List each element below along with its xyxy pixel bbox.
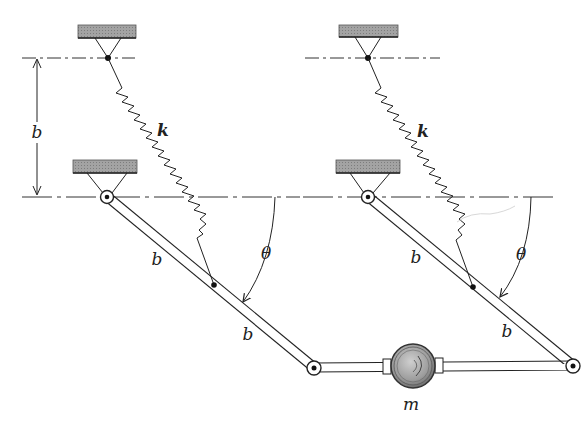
right-link-lower-b-label: b bbox=[502, 323, 513, 340]
dimension-b-label: b bbox=[32, 124, 43, 141]
left-assembly bbox=[73, 25, 317, 371]
left-bottom-pin-icon bbox=[307, 361, 321, 375]
right-bottom-ground bbox=[336, 160, 400, 173]
right-spring-k-label: k bbox=[417, 123, 429, 140]
mechanism-diagram bbox=[0, 0, 586, 421]
left-link bbox=[104, 193, 317, 371]
reference-lines bbox=[22, 58, 556, 197]
right-top-bracket bbox=[355, 37, 381, 58]
right-spring-attach-icon bbox=[470, 284, 476, 290]
right-link-upper-b-label: b bbox=[411, 249, 422, 266]
right-bottom-bracket bbox=[350, 173, 390, 193]
mass bbox=[383, 344, 443, 388]
mass-m-label: m bbox=[403, 396, 419, 413]
mass-left-collar bbox=[383, 359, 391, 374]
left-top-ground bbox=[78, 25, 136, 38]
right-theta-label: θ bbox=[516, 246, 526, 263]
left-spring-k-label: k bbox=[157, 122, 169, 139]
right-bottom-pin-icon bbox=[566, 359, 580, 373]
left-link-upper-b-label: b bbox=[152, 251, 163, 268]
left-link-lower-b-label: b bbox=[243, 326, 254, 343]
right-top-ground bbox=[339, 25, 398, 37]
connecting-rod-fill bbox=[318, 364, 570, 370]
mass-right-collar bbox=[435, 358, 443, 373]
mass-ball bbox=[391, 344, 435, 388]
left-spring-attach-icon bbox=[211, 282, 217, 288]
left-bottom-ground bbox=[73, 160, 137, 173]
left-theta-label: θ bbox=[261, 245, 271, 262]
